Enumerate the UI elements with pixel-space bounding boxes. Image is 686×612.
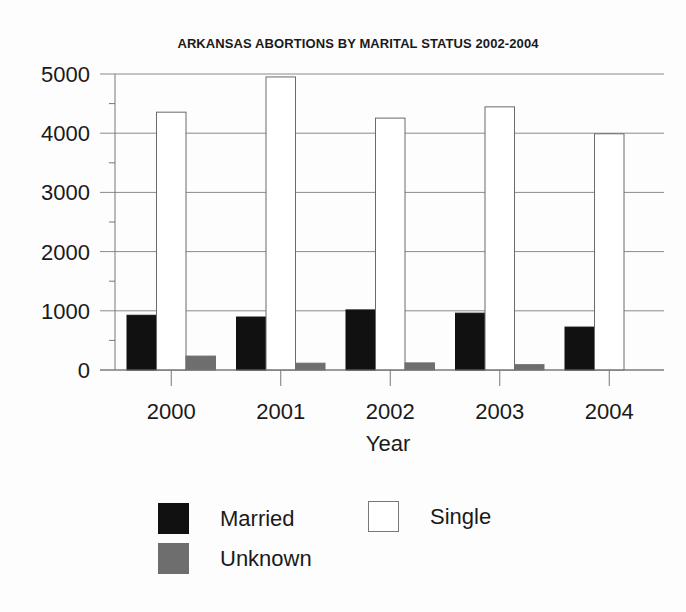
- plot-area: 010002000300040005000 200020012002200320…: [0, 0, 686, 480]
- legend-item-unknown: Unknown: [158, 543, 312, 574]
- bar-single-2003: [485, 107, 515, 370]
- bars: [127, 77, 624, 370]
- bar-married-2002: [346, 310, 376, 370]
- x-tick-label: 2001: [256, 399, 305, 424]
- bar-single-2000: [157, 112, 187, 370]
- x-tick-label: 2002: [366, 399, 415, 424]
- y-tick-label: 5000: [41, 62, 90, 87]
- legend-label-single: Single: [430, 504, 491, 530]
- bar-married-2001: [237, 317, 267, 370]
- chart: ARKANSAS ABORTIONS BY MARITAL STATUS 200…: [0, 0, 686, 612]
- bar-unknown-2002: [405, 363, 435, 370]
- y-axis: 010002000300040005000: [41, 62, 115, 383]
- bar-unknown-2000: [186, 356, 216, 370]
- y-tick-label: 4000: [41, 121, 90, 146]
- y-tick-label: 3000: [41, 180, 90, 205]
- bar-unknown-2001: [296, 363, 326, 370]
- bar-single-2004: [595, 134, 625, 370]
- legend-label-married: Married: [220, 506, 295, 532]
- bar-married-2000: [127, 315, 157, 370]
- legend: Married Single Unknown: [158, 503, 518, 583]
- y-tick-label: 2000: [41, 240, 90, 265]
- single-swatch: [368, 501, 399, 532]
- y-tick-label: 0: [78, 358, 90, 383]
- bar-unknown-2003: [515, 365, 545, 370]
- legend-item-married: Married: [158, 503, 295, 534]
- bar-single-2001: [266, 77, 296, 370]
- x-tick-label: 2004: [585, 399, 634, 424]
- x-tick-label: 2003: [475, 399, 524, 424]
- legend-label-unknown: Unknown: [220, 546, 312, 572]
- x-axis: 20002001200220032004: [100, 370, 664, 424]
- y-tick-label: 1000: [41, 299, 90, 324]
- unknown-swatch: [158, 543, 189, 574]
- legend-item-single: Single: [368, 501, 491, 532]
- bar-single-2002: [376, 118, 406, 370]
- bar-married-2003: [456, 313, 486, 370]
- x-tick-label: 2000: [147, 399, 196, 424]
- bar-married-2004: [565, 327, 595, 370]
- x-axis-label: Year: [366, 431, 410, 456]
- married-swatch: [158, 503, 189, 534]
